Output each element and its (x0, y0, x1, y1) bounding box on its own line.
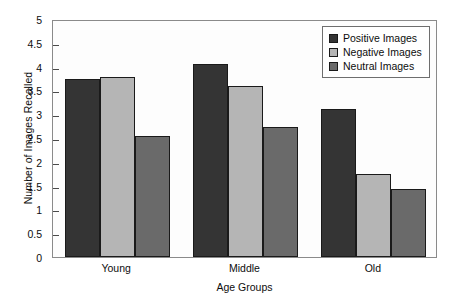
bar (263, 127, 298, 257)
bar (100, 77, 135, 257)
x-axis-tick-label: Middle (185, 262, 305, 274)
legend-item: Positive Images (329, 31, 422, 45)
bar (135, 136, 170, 257)
y-axis-tick-label: 0 (0, 252, 42, 264)
legend-swatch-icon (329, 34, 338, 43)
y-axis-tick-labels: 54.543.532.521.510.50 (0, 0, 46, 303)
x-axis-tick-label: Young (56, 262, 176, 274)
chart-legend: Positive ImagesNegative ImagesNeutral Im… (322, 26, 430, 78)
bar-chart-figure: Number of Images Recalled 54.543.532.521… (0, 0, 449, 303)
y-axis-tick-label: 3 (0, 109, 42, 121)
y-axis-tick-label: 2.5 (0, 133, 42, 145)
bar (356, 174, 391, 257)
legend-swatch-icon (329, 62, 338, 71)
legend-item: Neutral Images (329, 59, 422, 73)
y-axis-tick-label: 0.5 (0, 228, 42, 240)
y-axis-tick-label: 1.5 (0, 181, 42, 193)
y-axis-tick-label: 4 (0, 62, 42, 74)
legend-item: Negative Images (329, 45, 422, 59)
bar (391, 189, 426, 257)
y-axis-tick-label: 4.5 (0, 38, 42, 50)
y-axis-tick-label: 2 (0, 157, 42, 169)
bar (228, 86, 263, 257)
y-axis-tick-label: 3.5 (0, 85, 42, 97)
legend-swatch-icon (329, 48, 338, 57)
bar (321, 109, 356, 257)
legend-item-label: Positive Images (343, 32, 417, 44)
y-axis-tick-label: 1 (0, 204, 42, 216)
x-axis-tick-label: Old (313, 262, 433, 274)
bar (65, 79, 100, 258)
bar (193, 64, 228, 257)
y-axis-tick-label: 5 (0, 14, 42, 26)
legend-item-label: Negative Images (343, 46, 422, 58)
x-axis-title: Age Groups (52, 281, 437, 293)
legend-item-label: Neutral Images (343, 60, 414, 72)
